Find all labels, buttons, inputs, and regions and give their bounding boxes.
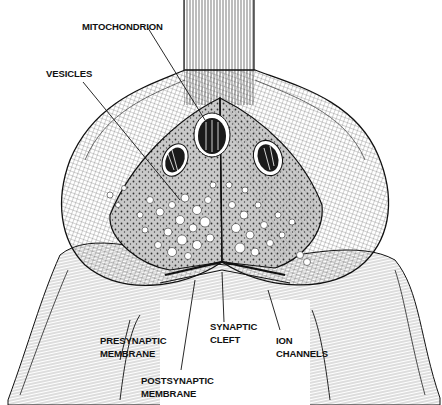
label-postsynaptic-membrane: POSTSYNAPTIC MEMBRANE <box>141 374 214 400</box>
label-vesicles: VESICLES <box>46 67 92 80</box>
label-synaptic-cleft: SYNAPTIC CLEFT <box>210 320 257 346</box>
label-line: SYNAPTIC <box>210 320 257 333</box>
label-line: ION <box>276 334 328 347</box>
label-line: VESICLES <box>46 67 92 80</box>
label-line: CHANNELS <box>276 347 328 360</box>
label-ion-channels: ION CHANNELS <box>276 334 328 360</box>
label-line: MEMBRANE <box>100 347 166 360</box>
label-line: POSTSYNAPTIC <box>141 374 214 387</box>
label-mitochondrion: MITOCHONDRION <box>82 20 163 33</box>
label-line: MEMBRANE <box>141 387 214 400</box>
label-line: PRESYNAPTIC <box>100 334 166 347</box>
label-presynaptic-membrane: PRESYNAPTIC MEMBRANE <box>100 334 166 360</box>
label-line: MITOCHONDRION <box>82 20 163 33</box>
label-line: CLEFT <box>210 333 257 346</box>
